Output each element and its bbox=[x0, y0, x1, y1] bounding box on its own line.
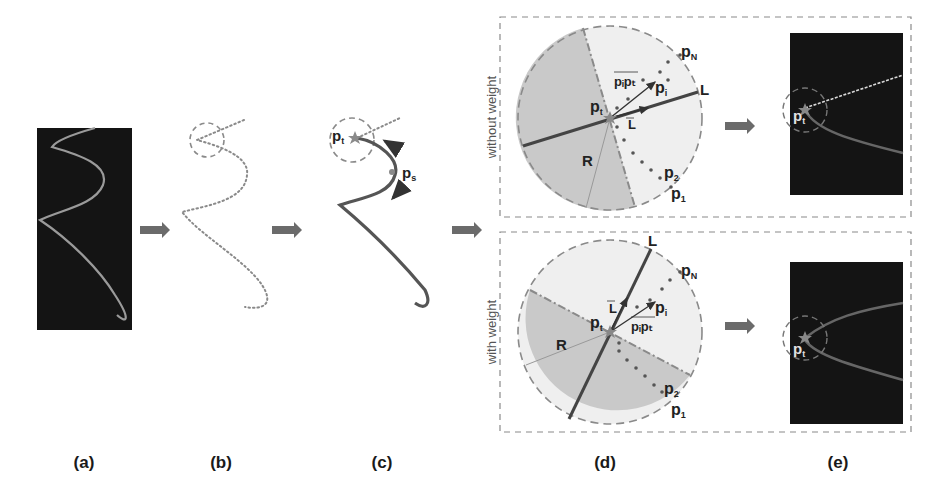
L-label: L bbox=[700, 81, 709, 98]
side-label-without-weight: without weight bbox=[484, 75, 499, 159]
panel-e-top: pt bbox=[783, 33, 903, 195]
p1-label: p1 bbox=[671, 401, 686, 420]
traced-curve bbox=[340, 138, 428, 306]
vector-L-label: L bbox=[609, 301, 617, 316]
panel-label-e: (e) bbox=[828, 453, 849, 472]
arrow-d-top-to-e bbox=[725, 118, 755, 134]
pipeline-figure: pt ps without weight with weight pt pi p… bbox=[0, 0, 945, 498]
start-star-icon bbox=[348, 131, 362, 144]
seed-point bbox=[389, 169, 395, 175]
vector-L-label: L bbox=[628, 117, 636, 132]
panel-b bbox=[182, 120, 267, 308]
arrow-d-bottom-to-e bbox=[725, 318, 755, 334]
ps-label: ps bbox=[402, 164, 416, 183]
L-label: L bbox=[648, 232, 657, 249]
pt-label: pt bbox=[332, 127, 344, 146]
vector-pipt-label: pᵢpₜ bbox=[614, 74, 636, 89]
panel-d-bottom: pt pi pN p2 p1 L L pᵢpₜ R bbox=[518, 232, 702, 424]
R-label: R bbox=[582, 152, 593, 169]
vector-pipt-label: pᵢpₜ bbox=[631, 319, 653, 334]
panel-label-a: (a) bbox=[74, 453, 95, 472]
panel-label-d: (d) bbox=[594, 453, 616, 472]
p1-label: p1 bbox=[671, 185, 686, 204]
panel-label-c: (c) bbox=[372, 453, 393, 472]
arrow-a-to-b bbox=[140, 222, 170, 238]
direction-arrow-down bbox=[393, 185, 405, 198]
dotted-points bbox=[182, 120, 267, 308]
arrow-c-to-d bbox=[452, 222, 482, 238]
pN-label: pN bbox=[681, 43, 697, 62]
search-circle bbox=[190, 123, 224, 157]
panel-c: pt ps bbox=[330, 118, 428, 306]
panel-e-bottom: pt bbox=[783, 262, 903, 424]
pN-label: pN bbox=[681, 262, 697, 281]
panel-label-b: (b) bbox=[210, 453, 232, 472]
R-label: R bbox=[556, 336, 567, 353]
panel-d-top: pt pi pN p2 p1 L L pᵢpₜ R bbox=[516, 26, 709, 211]
arrow-b-to-c bbox=[272, 222, 302, 238]
panel-a bbox=[37, 128, 132, 330]
side-label-with-weight: with weight bbox=[484, 299, 499, 365]
direction-arrow-up bbox=[385, 141, 400, 150]
